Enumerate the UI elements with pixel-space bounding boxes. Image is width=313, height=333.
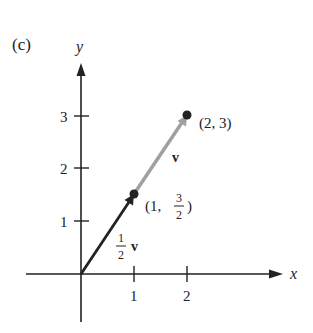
point-1-3half-label: (1, 3 2 ) xyxy=(145,191,192,222)
y-tick-3: 3 xyxy=(60,109,68,125)
vector-v-label: v xyxy=(172,150,179,165)
half-v-denominator: 2 xyxy=(118,248,124,262)
y-axis-label: y xyxy=(74,38,84,56)
point-label-prefix: (1, xyxy=(145,198,161,215)
vector-diagram: (c) y 1 2 3 x 1 2 v 1 2 v ( xyxy=(0,0,313,333)
point-label-numerator: 3 xyxy=(176,191,182,205)
vector-v: v xyxy=(134,115,187,194)
y-tick-1: 1 xyxy=(60,214,68,230)
x-axis-label: x xyxy=(289,265,297,282)
panel-label: (c) xyxy=(12,35,31,54)
y-axis-arrow-icon xyxy=(77,63,86,76)
point-2-3-label: (2, 3) xyxy=(199,115,232,132)
x-tick-1: 1 xyxy=(130,288,138,304)
point-1-3half xyxy=(130,190,139,199)
x-tick-2: 2 xyxy=(183,288,191,304)
y-axis: y 1 2 3 xyxy=(60,38,89,322)
point-label-denominator: 2 xyxy=(176,208,182,222)
x-axis: x 1 2 xyxy=(26,265,297,304)
point-2-3 xyxy=(183,111,192,120)
half-v-numerator: 1 xyxy=(118,231,124,245)
point-label-suffix: ) xyxy=(187,198,192,215)
y-tick-2: 2 xyxy=(60,161,68,177)
vector-half-v: 1 2 v xyxy=(81,194,138,274)
half-v-vector-label: v xyxy=(131,239,138,254)
x-axis-arrow-icon xyxy=(269,270,283,279)
